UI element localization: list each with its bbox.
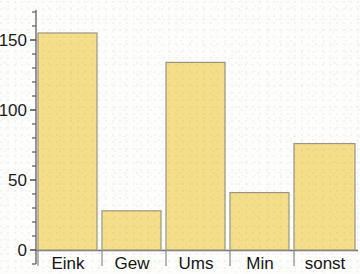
bar-ums — [166, 62, 225, 250]
y-tick-label-150: 150 — [0, 31, 27, 50]
y-tick-label-100: 100 — [0, 101, 27, 120]
bar-sonst — [294, 144, 355, 250]
bar-min — [230, 193, 289, 250]
x-label-sonst: sonst — [305, 254, 346, 273]
bar-eink — [38, 33, 97, 250]
chart-canvas: 150 100 50 0 — [0, 0, 360, 274]
bar-gew — [102, 211, 161, 250]
y-tick-label-50: 50 — [8, 171, 27, 190]
x-label-min: Min — [246, 254, 273, 273]
y-tick-label-0: 0 — [18, 241, 27, 260]
bar-chart: 150 100 50 0 — [0, 0, 360, 274]
x-label-ums: Ums — [179, 254, 214, 273]
x-label-eink: Eink — [51, 254, 85, 273]
x-label-gew: Gew — [115, 254, 151, 273]
